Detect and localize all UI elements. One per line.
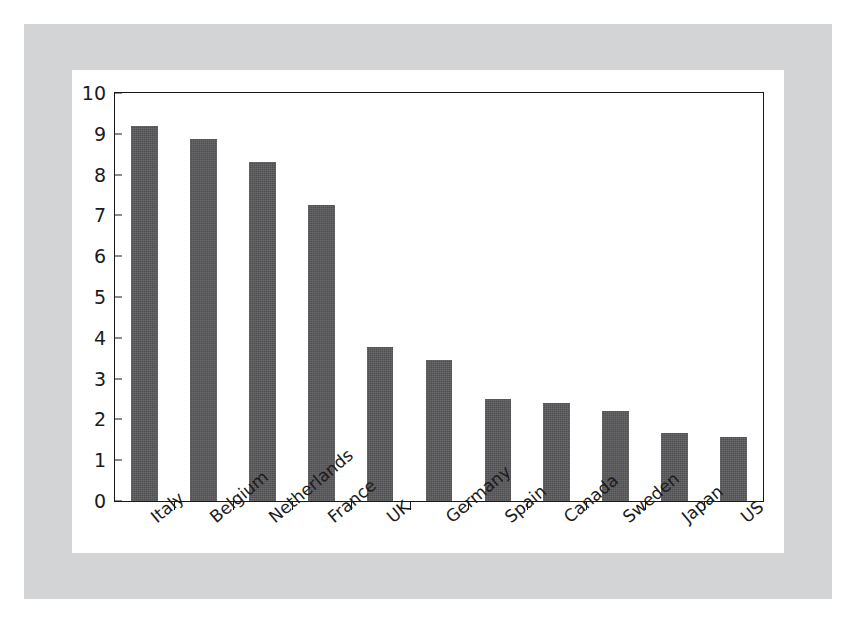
y-axis-tick-label: 7 bbox=[94, 206, 115, 225]
y-axis-tick-mark bbox=[115, 297, 122, 298]
plot-area: 012345678910ItalyBelgiumNetherlandsFranc… bbox=[114, 92, 764, 502]
bar bbox=[720, 437, 747, 501]
bar bbox=[131, 126, 158, 501]
y-axis-tick-mark bbox=[115, 93, 122, 94]
figure-page: 012345678910ItalyBelgiumNetherlandsFranc… bbox=[0, 0, 856, 623]
bars-layer bbox=[115, 93, 763, 501]
x-axis-category-label: US bbox=[738, 498, 767, 526]
bar bbox=[367, 347, 394, 501]
y-axis-tick-label: 1 bbox=[94, 451, 115, 470]
bar bbox=[426, 360, 453, 501]
y-axis-tick-mark bbox=[115, 256, 122, 257]
y-axis-tick-label: 10 bbox=[82, 84, 115, 103]
y-axis-tick-mark bbox=[115, 501, 122, 502]
y-axis-tick-label: 8 bbox=[94, 165, 115, 184]
y-axis-tick-label: 5 bbox=[94, 288, 115, 307]
bar-chart: 012345678910ItalyBelgiumNetherlandsFranc… bbox=[72, 70, 784, 553]
y-axis-tick-label: 0 bbox=[94, 492, 115, 511]
y-axis-tick-mark bbox=[115, 133, 122, 134]
bar bbox=[249, 162, 276, 501]
y-axis-tick-mark bbox=[115, 174, 122, 175]
y-axis-tick-label: 2 bbox=[94, 410, 115, 429]
y-axis-tick-label: 9 bbox=[94, 124, 115, 143]
y-axis-tick-mark bbox=[115, 215, 122, 216]
y-axis-tick-label: 3 bbox=[94, 369, 115, 388]
bar bbox=[543, 403, 570, 501]
bar bbox=[190, 139, 217, 501]
y-axis-tick-mark bbox=[115, 460, 122, 461]
y-axis-tick-mark bbox=[115, 419, 122, 420]
y-axis-tick-mark bbox=[115, 337, 122, 338]
y-axis-tick-mark bbox=[115, 378, 122, 379]
y-axis-tick-label: 4 bbox=[94, 328, 115, 347]
y-axis-tick-label: 6 bbox=[94, 247, 115, 266]
